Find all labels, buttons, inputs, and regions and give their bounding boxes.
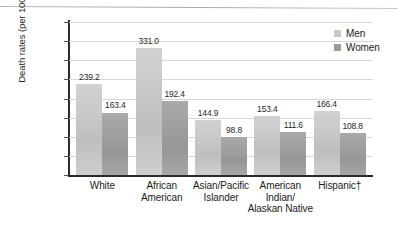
bar-value-label: 144.9: [190, 109, 226, 118]
bar-value-label: 153.4: [249, 105, 285, 114]
bar-women: [162, 101, 188, 175]
y-axis-tick: [64, 79, 68, 80]
chart-figure: Death rates (per 100,000) 05010015020025…: [0, 0, 398, 229]
scan-artifact-line: [0, 6, 398, 9]
y-axis-tick: [64, 175, 68, 176]
bar-value-label: 98.8: [216, 126, 252, 135]
legend-label-men: Men: [346, 28, 365, 39]
y-axis-tick: [64, 60, 68, 61]
bar-men: [314, 111, 340, 175]
x-axis-category-label: Hispanic†: [290, 180, 390, 192]
y-axis-tick: [64, 99, 68, 100]
gridline: [69, 22, 373, 23]
y-axis-tick: [64, 41, 68, 42]
bar-value-label: 108.8: [335, 122, 371, 131]
bar-value-label: 163.4: [97, 101, 133, 110]
legend-item-men: Men: [334, 26, 380, 40]
legend-label-women: Women: [346, 42, 380, 53]
y-axis-tick: [64, 137, 68, 138]
y-axis-title: Death rates (per 100,000): [16, 0, 27, 105]
bar-value-label: 166.4: [309, 100, 345, 109]
legend-swatch-women-icon: [334, 44, 341, 51]
y-axis-tick: [64, 118, 68, 119]
bar-women: [221, 137, 247, 175]
y-axis-tick: [64, 156, 68, 157]
category-label-line: Indian/: [230, 192, 330, 204]
gridline: [69, 79, 373, 80]
bar-women: [102, 113, 128, 176]
bar-value-label: 331.0: [131, 37, 167, 46]
legend-item-women: Women: [334, 40, 380, 54]
bar-value-label: 239.2: [71, 73, 107, 82]
category-label-line: Alaskan Native: [230, 203, 330, 215]
bar-women: [280, 132, 306, 175]
bar-men: [76, 84, 102, 175]
chart-legend: Men Women: [334, 26, 380, 54]
bar-women: [340, 133, 366, 175]
category-label-line: Hispanic†: [290, 180, 390, 192]
bar-value-label: 111.6: [275, 121, 311, 130]
legend-swatch-men-icon: [334, 30, 341, 37]
bar-men: [136, 48, 162, 175]
x-axis-line: [68, 175, 373, 177]
bar-value-label: 192.4: [157, 90, 193, 99]
plot-area: 050100150200250300350400239.2163.4331.01…: [69, 22, 373, 175]
y-axis-tick: [64, 22, 68, 23]
gridline: [69, 41, 373, 42]
gridline: [69, 60, 373, 61]
